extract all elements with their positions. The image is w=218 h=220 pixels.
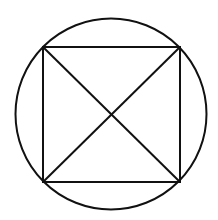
diagram-canvas [0, 0, 218, 220]
background [0, 0, 218, 220]
